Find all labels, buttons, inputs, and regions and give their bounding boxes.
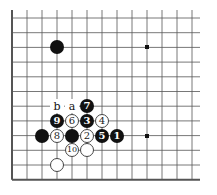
point-label-a: a (65, 99, 79, 113)
point-label-b: b (50, 99, 64, 113)
white-stone-move-10: 10 (65, 143, 79, 157)
white-stone-move-2: 2 (80, 129, 94, 143)
black-stone-move-9: 9 (50, 114, 64, 128)
hoshi-point (145, 45, 149, 49)
white-stone (50, 158, 64, 172)
go-board: ba79634825110 (0, 0, 217, 195)
black-stone (65, 129, 79, 143)
black-stone-move-1: 1 (110, 129, 124, 143)
hoshi-point (145, 134, 149, 138)
black-stone-move-5: 5 (95, 129, 109, 143)
white-stone-move-6: 6 (65, 114, 79, 128)
black-stone (35, 129, 49, 143)
black-stone-move-3: 3 (80, 114, 94, 128)
white-stone-move-8: 8 (50, 129, 64, 143)
black-stone (50, 40, 64, 54)
white-stone-move-4: 4 (95, 114, 109, 128)
black-stone-move-7: 7 (80, 99, 94, 113)
white-stone (80, 143, 94, 157)
board-layer: ba79634825110 (0, 0, 217, 195)
